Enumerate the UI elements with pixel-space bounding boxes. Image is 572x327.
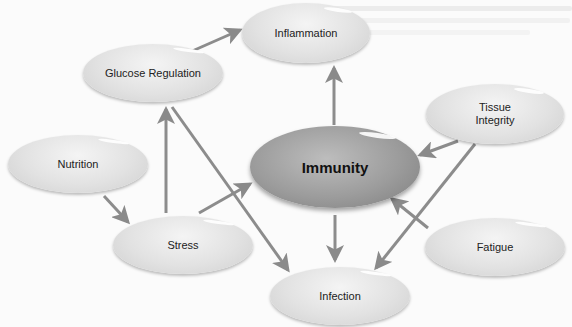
node-infection: Infection xyxy=(270,267,410,325)
node-stress: Stress xyxy=(113,216,253,274)
node-label: Inflammation xyxy=(275,27,338,40)
arrow-glucose-to-inflammation xyxy=(190,30,240,52)
arrow-stress-to-immunity xyxy=(199,184,250,213)
arrow-tissue-to-immunity xyxy=(420,141,458,155)
node-glucose-regulation: Glucose Regulation xyxy=(83,44,223,102)
node-label: Immunity xyxy=(302,161,369,174)
node-immunity: Immunity xyxy=(250,126,420,208)
node-label: Infection xyxy=(319,290,361,303)
node-label: Glucose Regulation xyxy=(105,67,201,80)
node-nutrition: Nutrition xyxy=(8,135,148,193)
node-label: Tissue Integrity xyxy=(475,101,514,127)
node-fatigue: Fatigue xyxy=(425,218,565,276)
node-tissue-integrity: Tissue Integrity xyxy=(426,84,564,144)
node-label: Stress xyxy=(167,239,198,252)
node-label: Nutrition xyxy=(58,158,99,171)
node-inflammation: Inflammation xyxy=(242,3,370,63)
arrow-nutrition-to-stress xyxy=(104,196,128,222)
node-label: Fatigue xyxy=(477,241,514,254)
